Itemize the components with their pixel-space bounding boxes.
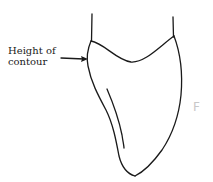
left-root-line [92, 14, 93, 41]
height-of-contour-label-line2: contour [8, 56, 47, 67]
right-root-line [173, 17, 174, 37]
height-of-contour-arrow-shaft [61, 58, 84, 59]
cemento-enamel-junction-curve [91, 36, 174, 62]
height-of-contour-label-line1: Height of [8, 45, 56, 56]
faint-letter-mark: F [193, 100, 200, 114]
crown-right-outline [135, 36, 182, 176]
tooth-diagram [0, 0, 213, 182]
